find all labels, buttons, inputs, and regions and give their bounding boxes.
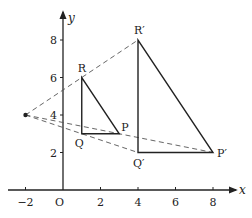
x-tick-label: 4 (135, 196, 142, 209)
y-axis-label: y (67, 11, 75, 25)
triangle (82, 78, 120, 134)
x-tick-label: 8 (210, 196, 217, 209)
y-tick-label: 2 (50, 147, 57, 160)
label-R: R (78, 62, 87, 75)
y-axis-ticks: 2468 (50, 34, 63, 160)
label-P-prime: P′ (217, 147, 227, 160)
centre-of-enlargement (23, 113, 27, 117)
x-axis-label: x (239, 183, 246, 197)
y-tick-label: 6 (50, 72, 57, 85)
coordinate-diagram: −22468 2468 x y O R Q P R′ Q′ P′ (0, 0, 252, 218)
origin-label: O (55, 196, 64, 209)
x-tick-label: 6 (172, 196, 179, 209)
y-tick-label: 8 (50, 34, 57, 47)
label-Q-prime: Q′ (133, 157, 145, 170)
label-R-prime: R′ (134, 24, 145, 37)
label-Q: Q (75, 137, 84, 150)
triangle (138, 40, 213, 153)
label-P: P (121, 121, 129, 134)
x-tick-label: −2 (17, 196, 33, 209)
x-tick-label: 2 (97, 196, 104, 209)
enlargement-rays (26, 40, 214, 153)
triangles (82, 40, 213, 153)
